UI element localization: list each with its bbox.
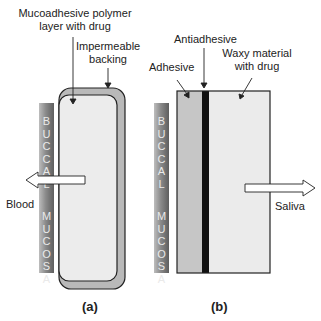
label-adhesive: Adhesive bbox=[149, 61, 194, 74]
label-line: layer with drug bbox=[10, 20, 140, 33]
antiadhesive-layer bbox=[202, 91, 209, 273]
label-antiadhesive: Antiadhesive bbox=[174, 33, 237, 46]
label-line: backing bbox=[76, 53, 140, 66]
label-line: Impermeable bbox=[76, 40, 140, 53]
label-line: with drug bbox=[222, 60, 292, 73]
label-saliva: Saliva bbox=[275, 200, 305, 213]
caption-a: (a) bbox=[82, 299, 98, 314]
label-waxy-material: Waxy material with drug bbox=[222, 47, 292, 73]
label-line: Mucoadhesive polymer bbox=[10, 7, 140, 20]
caption-b: (b) bbox=[211, 299, 228, 314]
adhesive-layer bbox=[177, 91, 202, 273]
label-line: Waxy material bbox=[222, 47, 292, 60]
label-impermeable-backing: Impermeable backing bbox=[76, 40, 140, 66]
label-blood: Blood bbox=[6, 198, 34, 211]
waxy-drug-layer bbox=[209, 91, 270, 273]
mucoadhesive-polymer-layer bbox=[59, 95, 117, 281]
label-polymer-layer: Mucoadhesive polymer layer with drug bbox=[10, 7, 140, 33]
